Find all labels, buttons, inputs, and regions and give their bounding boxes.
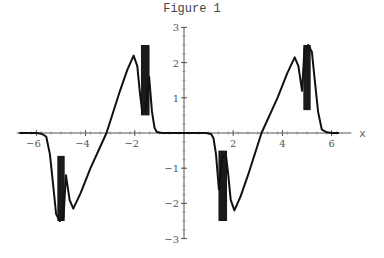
plot-area: −6−4−2246−3−2−1123x xyxy=(0,0,384,258)
y-tick-label: −1 xyxy=(164,163,179,174)
y-tick-label: 2 xyxy=(173,58,179,69)
x-tick-label: −4 xyxy=(75,138,90,149)
y-tick-label: −2 xyxy=(164,198,179,209)
x-tick-label: 2 xyxy=(230,138,236,149)
x-axis-label: x xyxy=(359,127,366,140)
y-tick-label: 1 xyxy=(173,93,179,104)
x-tick-label: −6 xyxy=(26,138,41,149)
y-tick-label: −3 xyxy=(164,234,179,245)
x-tick-label: 4 xyxy=(279,138,285,149)
y-tick-label: 3 xyxy=(173,22,179,33)
x-tick-label: −2 xyxy=(124,138,139,149)
x-tick-label: 6 xyxy=(328,138,334,149)
